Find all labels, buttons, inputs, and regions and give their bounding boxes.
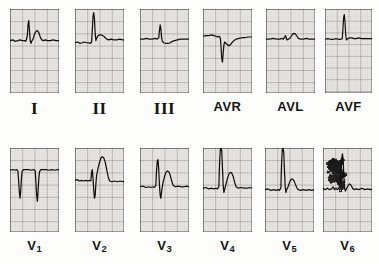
ecg-strip-i (10, 9, 59, 93)
lead-label-v4: V4 (220, 239, 234, 254)
ecg-lead-avl: AVL (266, 0, 315, 122)
lead-label-subscript: 6 (349, 244, 354, 254)
ecg-sheet: I II (0, 0, 379, 264)
ecg-waveform-svg-v1 (10, 148, 59, 232)
grid-lines (75, 9, 124, 93)
ecg-waveform-svg-v2 (75, 148, 124, 232)
lead-label-text: AVF (335, 99, 362, 114)
ecg-lead-v1: V1 (10, 133, 59, 264)
lead-label-subscript: 4 (229, 244, 234, 254)
lead-label-v3: V3 (157, 239, 171, 254)
grid-lines (325, 9, 372, 93)
ecg-waveform-svg-avl (266, 9, 315, 93)
ecg-strip-ii (75, 9, 124, 93)
ecg-lead-iii: III (140, 0, 189, 122)
ecg-lead-v4: V4 (203, 133, 252, 264)
lead-label-text: III (154, 99, 175, 118)
ecg-strip-v6 (323, 148, 372, 232)
ecg-lead-v3: V3 (140, 133, 189, 264)
lead-label-avl: AVL (277, 100, 304, 113)
ecg-strip-avf (325, 9, 372, 93)
ecg-strip-v1 (10, 148, 59, 232)
ecg-strip-avr (203, 9, 252, 93)
ecg-waveform-svg-iii (140, 9, 189, 93)
ecg-waveform-svg-avr (203, 9, 252, 93)
limb-leads-row: I II (0, 0, 379, 122)
precordial-leads-row: V1 V2 (0, 133, 379, 264)
lead-label-subscript: 1 (36, 244, 41, 254)
lead-label-text: II (92, 99, 106, 118)
lead-label-v2: V2 (92, 239, 106, 254)
grid-lines (140, 9, 189, 93)
lead-label-subscript: 3 (166, 244, 171, 254)
ecg-strip-iii (140, 9, 189, 93)
ecg-lead-v5: V5 (265, 133, 314, 264)
grid-lines (203, 148, 252, 232)
ecg-waveform-svg-v5 (265, 148, 314, 232)
ecg-lead-ii: II (75, 0, 124, 122)
grid-lines (203, 9, 252, 93)
grid-lines (10, 148, 59, 232)
ecg-waveform-svg-v6 (323, 148, 372, 232)
lead-label-subscript: 5 (291, 244, 296, 254)
ecg-strip-avl (266, 9, 315, 93)
ecg-lead-i: I (10, 0, 59, 122)
lead-label-text: AVL (277, 99, 304, 114)
lead-label-ii: II (92, 100, 106, 117)
ecg-lead-v6: V6 (323, 133, 372, 264)
lead-label-v5: V5 (282, 239, 296, 254)
ecg-strip-v4 (203, 148, 252, 232)
ecg-waveform-svg-ii (75, 9, 124, 93)
lead-label-avr: AVR (214, 100, 242, 113)
ecg-lead-avr: AVR (203, 0, 252, 122)
ecg-strip-v5 (265, 148, 314, 232)
ecg-waveform-svg-v4 (203, 148, 252, 232)
grid-lines (140, 148, 189, 232)
lead-label-avf: AVF (335, 100, 362, 113)
lead-label-i: I (31, 100, 38, 117)
lead-label-subscript: 2 (101, 244, 106, 254)
lead-label-v6: V6 (340, 239, 354, 254)
grid-lines (266, 9, 315, 93)
lead-label-text: AVR (214, 99, 242, 114)
lead-label-iii: III (154, 100, 175, 117)
ecg-waveform-svg-i (10, 9, 59, 93)
ecg-waveform-svg-v3 (140, 148, 189, 232)
lead-label-text: I (31, 99, 38, 118)
grid-lines (10, 9, 59, 93)
ecg-waveform-svg-avf (325, 9, 372, 93)
ecg-strip-v2 (75, 148, 124, 232)
lead-label-v1: V1 (27, 239, 41, 254)
ecg-lead-avf: AVF (325, 0, 372, 122)
ecg-lead-v2: V2 (75, 133, 124, 264)
ecg-strip-v3 (140, 148, 189, 232)
